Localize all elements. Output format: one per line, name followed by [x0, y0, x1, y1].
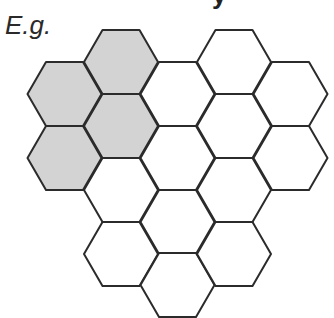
hexagon-grid: [0, 0, 334, 318]
